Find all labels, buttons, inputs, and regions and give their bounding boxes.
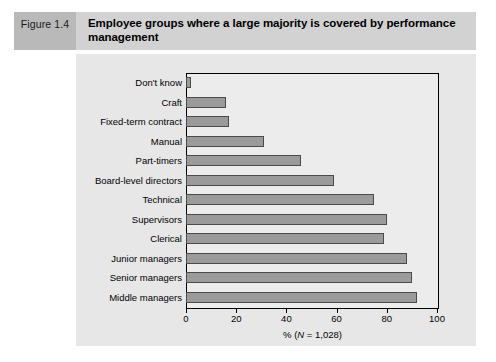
y-axis-label: Board-level directors xyxy=(95,171,182,191)
bar-row xyxy=(186,210,387,230)
bar-row xyxy=(186,268,412,288)
bar xyxy=(186,175,334,186)
x-tick-label: 40 xyxy=(281,313,292,324)
bar xyxy=(186,292,417,303)
y-axis-label: Junior managers xyxy=(111,249,182,269)
bar xyxy=(186,155,301,166)
x-axis-title-prefix: % ( xyxy=(283,329,297,340)
y-axis-category-labels: Don't knowCraftFixed-term contractManual… xyxy=(40,73,182,307)
y-axis-label: Supervisors xyxy=(132,210,182,230)
bar-row xyxy=(186,112,229,132)
bar-row xyxy=(186,229,384,249)
x-tick-label: 0 xyxy=(183,313,188,324)
bar xyxy=(186,253,407,264)
x-axis-title: % (N = 1,028) xyxy=(186,329,439,340)
x-axis-title-suffix: = 1,028) xyxy=(304,329,342,340)
figure-title-band: Employee groups where a large majority i… xyxy=(76,12,476,50)
bar-row xyxy=(186,93,226,113)
x-tick-label: 80 xyxy=(382,313,393,324)
y-axis-label: Manual xyxy=(151,132,182,152)
figure-number-tag: Figure 1.4 xyxy=(14,12,76,50)
bar xyxy=(186,272,412,283)
x-tick-label: 20 xyxy=(231,313,242,324)
bar-row xyxy=(186,288,417,308)
y-axis-label: Middle managers xyxy=(109,288,182,308)
bar-row xyxy=(186,190,374,210)
figure-header: Figure 1.4 Employee groups where a large… xyxy=(14,12,476,50)
bar-row xyxy=(186,132,264,152)
bar xyxy=(186,77,191,88)
y-axis-label: Fixed-term contract xyxy=(100,112,182,132)
y-axis-label: Technical xyxy=(142,190,182,210)
bar-row xyxy=(186,151,301,171)
bar-row xyxy=(186,73,191,93)
bar xyxy=(186,194,374,205)
bar-row xyxy=(186,249,407,269)
x-tick-label: 60 xyxy=(331,313,342,324)
figure-number-label: Figure 1.4 xyxy=(21,18,69,30)
bar-row xyxy=(186,171,334,191)
y-axis-label: Craft xyxy=(161,93,182,113)
bar xyxy=(186,233,384,244)
figure-title: Employee groups where a large majority i… xyxy=(88,17,466,44)
bar-series xyxy=(186,73,437,307)
bar xyxy=(186,97,226,108)
x-tick-label: 100 xyxy=(429,313,445,324)
y-axis-label: Don't know xyxy=(135,73,182,93)
y-axis-label: Clerical xyxy=(150,229,182,249)
bar xyxy=(186,136,264,147)
y-axis-label: Part-timers xyxy=(136,151,182,171)
bar xyxy=(186,214,387,225)
bar xyxy=(186,116,229,127)
y-axis-label: Senior managers xyxy=(110,268,182,288)
x-axis-tick-labels: 020406080100 xyxy=(186,313,439,327)
